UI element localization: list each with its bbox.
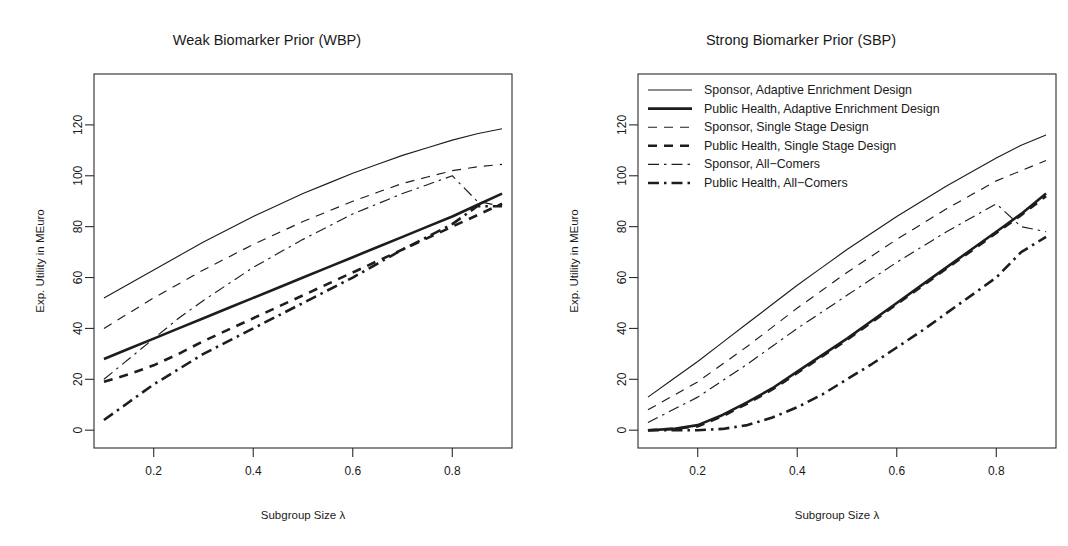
figure-root: Weak Biomarker Prior (WBP) Exp. Utility …: [0, 0, 1068, 546]
y-tick-label: 60: [615, 271, 629, 285]
y-tick-label: 20: [615, 372, 629, 386]
y-tick-label: 20: [71, 372, 85, 386]
chart-svg-right: Strong Biomarker Prior (SBP) Exp. Utilit…: [534, 0, 1068, 546]
series-line: [104, 194, 502, 359]
series-group-left: [104, 129, 502, 420]
y-axis-ticks-right: 020406080100120: [615, 115, 638, 434]
y-tick-label: 120: [615, 115, 629, 135]
x-tick-label: 0.4: [789, 464, 806, 478]
y-tick-label: 0: [71, 427, 85, 434]
legend-label: Sponsor, Single Stage Design: [704, 120, 869, 134]
series-line: [648, 237, 1046, 430]
x-tick-label: 0.6: [888, 464, 905, 478]
y-tick-label: 80: [615, 220, 629, 234]
chart-panel-weak-biomarker-prior: Weak Biomarker Prior (WBP) Exp. Utility …: [0, 0, 534, 546]
x-axis-ticks-left: 0.20.40.60.8: [145, 448, 461, 478]
x-axis-label-right: Subgroup Size λ: [795, 509, 880, 521]
plot-frame-left: [94, 74, 512, 448]
series-line: [648, 135, 1046, 397]
y-tick-label: 120: [71, 115, 85, 135]
y-tick-label: 80: [71, 220, 85, 234]
x-axis-label-left: Subgroup Size λ: [261, 509, 346, 521]
x-tick-label: 0.2: [145, 464, 162, 478]
x-tick-label: 0.8: [444, 464, 461, 478]
y-axis-ticks-left: 020406080100120: [71, 115, 94, 434]
y-tick-label: 100: [71, 165, 85, 185]
series-line: [104, 164, 502, 328]
panel-title-left: Weak Biomarker Prior (WBP): [173, 32, 361, 48]
legend-label: Public Health, All−Comers: [704, 176, 848, 190]
series-line: [104, 129, 502, 298]
x-tick-label: 0.2: [689, 464, 706, 478]
x-tick-label: 0.4: [245, 464, 262, 478]
legend: Sponsor, Adaptive Enrichment DesignPubli…: [648, 83, 940, 190]
y-axis-label-right: Exp. Utility in MEuro: [568, 209, 580, 313]
x-tick-label: 0.8: [988, 464, 1005, 478]
y-tick-label: 40: [615, 321, 629, 335]
series-line: [648, 194, 1046, 431]
y-tick-label: 0: [615, 427, 629, 434]
series-line: [648, 196, 1046, 430]
legend-label: Public Health, Adaptive Enrichment Desig…: [704, 102, 940, 116]
panel-title-right: Strong Biomarker Prior (SBP): [706, 32, 896, 48]
x-axis-ticks-right: 0.20.40.60.8: [689, 448, 1005, 478]
y-axis-label-left: Exp. Utility in MEuro: [34, 209, 46, 313]
y-tick-label: 60: [71, 271, 85, 285]
series-line: [648, 204, 1046, 423]
y-tick-label: 40: [71, 321, 85, 335]
legend-label: Public Health, Single Stage Design: [704, 139, 896, 153]
series-line: [104, 206, 502, 420]
y-tick-label: 100: [615, 165, 629, 185]
chart-svg-left: Weak Biomarker Prior (WBP) Exp. Utility …: [0, 0, 534, 546]
legend-label: Sponsor, All−Comers: [704, 157, 820, 171]
legend-label: Sponsor, Adaptive Enrichment Design: [704, 83, 912, 97]
x-tick-label: 0.6: [344, 464, 361, 478]
chart-panel-strong-biomarker-prior: Strong Biomarker Prior (SBP) Exp. Utilit…: [534, 0, 1068, 546]
